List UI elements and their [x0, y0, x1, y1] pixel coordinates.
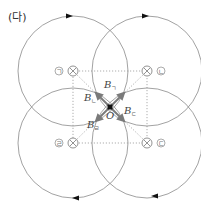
wire-tag-1: ㄱ [56, 68, 62, 76]
wire-4 [68, 138, 78, 148]
field-label-right: Bㄷ [123, 105, 137, 117]
wire-2 [142, 66, 152, 76]
arrow-icon [142, 14, 149, 19]
arrow-icon [72, 196, 79, 201]
origin-label: O [106, 110, 114, 121]
field-label-left: Bㄴ [83, 92, 97, 104]
wire-tag-2: ㄴ [158, 68, 164, 76]
arrow-icon [66, 14, 73, 19]
wire-tag-3: ㄷ [158, 140, 164, 148]
wire-3 [142, 138, 152, 148]
wire-1 [68, 66, 78, 76]
origin-point [108, 105, 113, 110]
field-label-top: Bㄱ [103, 79, 117, 91]
magnetic-field-diagram: O ㄱ ㄴ ㄹ ㄷ Bㄱ Bㄴ Bㄹ Bㄷ [0, 0, 201, 205]
wire-tag-4: ㄹ [56, 140, 62, 148]
